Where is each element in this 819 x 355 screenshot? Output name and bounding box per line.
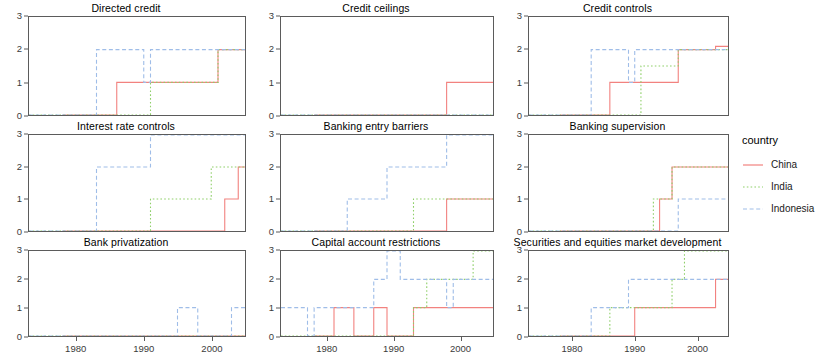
y-tick-label: 2 [517, 45, 522, 55]
facet-title: Banking entry barriers [252, 120, 500, 132]
x-tick-label: 1980 [316, 344, 337, 354]
x-tick-mark [698, 337, 699, 341]
y-tick-label: 0 [269, 332, 274, 342]
plot-area [28, 16, 246, 116]
facet-title: Credit controls [500, 2, 735, 14]
y-tick-label: 1 [17, 303, 22, 313]
y-tick-label: 0 [517, 332, 522, 342]
y-tick-label: 2 [269, 45, 274, 55]
y-tick-label: 3 [517, 11, 522, 21]
y-axis: 0123 [2, 16, 28, 116]
x-tick-label: 1980 [561, 344, 582, 354]
facet-panel: Banking supervision0123 [500, 120, 735, 236]
legend-items: ChinaIndiaIndonesia [742, 155, 819, 218]
facet-panel: Credit controls0123 [500, 2, 735, 120]
series-line-indonesia [29, 308, 245, 336]
y-tick-label: 2 [517, 274, 522, 284]
chart-figure: Directed credit0123Credit ceilings0123Cr… [0, 0, 819, 355]
y-tick-label: 0 [17, 332, 22, 342]
facet-title: Capital account restrictions [252, 236, 500, 248]
y-tick-label: 3 [517, 245, 522, 255]
y-axis: 0123 [502, 16, 528, 116]
y-axis: 0123 [254, 250, 280, 337]
series-line-china [314, 82, 493, 115]
x-axis: 198019902000 [528, 337, 729, 355]
facet-title: Directed credit [0, 2, 252, 14]
series-line-indonesia [29, 135, 245, 231]
y-tick-label: 1 [517, 78, 522, 88]
y-tick-label: 3 [269, 245, 274, 255]
y-axis: 0123 [2, 134, 28, 232]
facet-panel: Securities and equities market developme… [500, 236, 735, 355]
series-line-indonesia [281, 135, 493, 231]
legend-key-swatch [742, 159, 764, 171]
y-axis: 0123 [254, 134, 280, 232]
x-tick-mark [76, 337, 77, 341]
facet-panel: Bank privatization0123198019902000 [0, 236, 252, 355]
facet-panel: Banking entry barriers0123 [252, 120, 500, 236]
y-tick-label: 2 [269, 274, 274, 284]
series-line-indonesia [529, 199, 728, 231]
y-tick-label: 3 [269, 129, 274, 139]
chart-legend: country ChinaIndiaIndonesia [742, 134, 819, 221]
plot-area [280, 16, 494, 116]
plot-area [528, 16, 729, 116]
y-tick-label: 1 [517, 303, 522, 313]
y-tick-label: 2 [17, 274, 22, 284]
y-axis: 0123 [502, 134, 528, 232]
facet-title: Banking supervision [500, 120, 735, 132]
x-tick-mark [212, 337, 213, 341]
facet-panel: Directed credit0123 [0, 2, 252, 120]
facet-title: Securities and equities market developme… [500, 236, 735, 248]
plot-area [528, 250, 729, 337]
plot-area [528, 134, 729, 232]
x-tick-mark [394, 337, 395, 341]
x-tick-label: 2000 [201, 344, 222, 354]
facet-panel: Credit ceilings0123 [252, 2, 500, 120]
y-tick-label: 2 [517, 162, 522, 172]
x-tick-mark [572, 337, 573, 341]
legend-item-china[interactable]: China [742, 155, 819, 174]
legend-label: China [771, 159, 797, 171]
y-tick-label: 1 [269, 78, 274, 88]
legend-label: India [771, 181, 793, 193]
y-tick-label: 2 [269, 162, 274, 172]
y-tick-label: 3 [17, 129, 22, 139]
facet-title: Credit ceilings [252, 2, 500, 14]
y-tick-label: 1 [269, 303, 274, 313]
x-tick-mark [144, 337, 145, 341]
y-tick-label: 2 [17, 45, 22, 55]
y-tick-label: 2 [17, 162, 22, 172]
y-tick-label: 3 [517, 129, 522, 139]
facet-panel: Capital account restrictions012319801990… [252, 236, 500, 355]
legend-item-india[interactable]: India [742, 177, 819, 196]
facet-title: Bank privatization [0, 236, 252, 248]
x-tick-label: 2000 [450, 344, 471, 354]
plot-area [28, 250, 246, 337]
legend-title: country [742, 134, 819, 146]
x-tick-label: 1980 [65, 344, 86, 354]
legend-label: Indonesia [771, 203, 814, 215]
x-tick-label: 1990 [624, 344, 645, 354]
y-tick-label: 1 [17, 78, 22, 88]
x-tick-label: 1990 [383, 344, 404, 354]
series-line-china [314, 308, 493, 336]
series-line-china [314, 199, 493, 231]
x-axis: 198019902000 [280, 337, 494, 355]
legend-item-indonesia[interactable]: Indonesia [742, 199, 819, 218]
plot-area [280, 250, 494, 337]
facet-title: Interest rate controls [0, 120, 252, 132]
plot-area [280, 134, 494, 232]
series-line-china [560, 46, 728, 115]
x-tick-label: 2000 [687, 344, 708, 354]
y-tick-label: 3 [17, 245, 22, 255]
x-tick-mark [461, 337, 462, 341]
y-tick-label: 3 [269, 11, 274, 21]
x-tick-mark [327, 337, 328, 341]
y-tick-label: 1 [517, 195, 522, 205]
y-tick-label: 1 [269, 195, 274, 205]
facet-panel: Interest rate controls0123 [0, 120, 252, 236]
x-tick-label: 1990 [133, 344, 154, 354]
facet-grid: Directed credit0123Credit ceilings0123Cr… [0, 0, 735, 355]
series-line-india [281, 199, 493, 231]
